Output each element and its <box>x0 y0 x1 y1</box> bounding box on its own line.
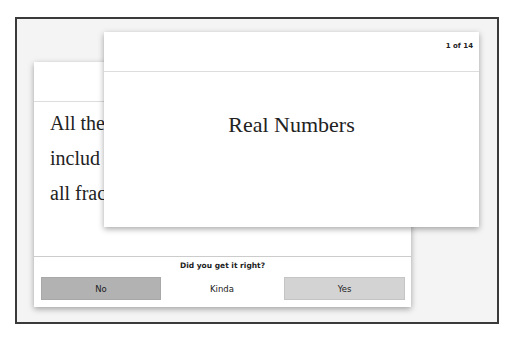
definition-line: All the <box>50 106 106 141</box>
kinda-button[interactable]: Kinda <box>161 277 283 300</box>
definition-text: All the includ all frac <box>50 106 106 211</box>
definition-line: all frac <box>50 176 106 211</box>
rating-bar: Did you get it right? No Kinda Yes <box>34 256 411 307</box>
yes-button[interactable]: Yes <box>284 277 405 300</box>
card-term: Real Numbers <box>104 112 479 138</box>
no-button[interactable]: No <box>41 277 161 300</box>
definition-line: includ <box>50 141 106 176</box>
card-counter: 1 of 14 <box>446 42 473 50</box>
front-card-header: 1 of 14 <box>104 32 479 72</box>
flashcard-front[interactable]: 1 of 14 Real Numbers <box>104 32 479 227</box>
rating-prompt: Did you get it right? <box>34 261 411 270</box>
